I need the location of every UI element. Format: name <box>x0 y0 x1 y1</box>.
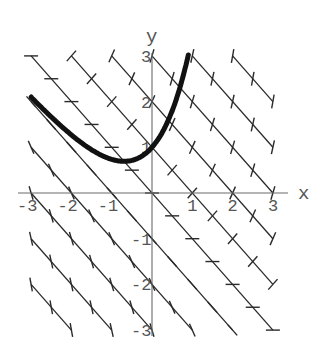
x-tick-label: -1 <box>98 197 118 216</box>
slope-mark <box>271 140 274 154</box>
slope-mark <box>50 255 53 269</box>
slope-mark <box>231 141 235 154</box>
slope-mark <box>67 142 76 153</box>
y-tick-label: -1 <box>131 231 151 250</box>
slope-mark <box>190 95 194 108</box>
slope-mark <box>48 164 54 177</box>
slope-mark <box>210 164 216 177</box>
slope-mark <box>127 211 136 222</box>
slope-mark <box>28 141 34 154</box>
x-tick-label: -3 <box>17 197 37 216</box>
slope-mark <box>69 232 73 245</box>
slope-mark <box>208 302 217 313</box>
slope-mark <box>109 49 115 62</box>
slope-mark <box>191 49 194 63</box>
y-tick-label: 2 <box>141 94 151 113</box>
slope-mark <box>250 209 256 222</box>
slope-mark <box>169 301 175 314</box>
slope-mark <box>129 255 135 268</box>
y-tick-label: -2 <box>131 276 151 295</box>
slope-mark <box>30 232 33 246</box>
slope-mark <box>189 141 195 154</box>
slope-mark <box>168 256 177 267</box>
slope-mark <box>189 324 195 337</box>
x-tick-label: -2 <box>57 197 77 216</box>
slope-mark <box>211 72 214 86</box>
y-tick-label: 3 <box>141 48 151 67</box>
x-tick-label: 2 <box>228 197 238 216</box>
slope-mark <box>110 278 114 291</box>
slope-mark <box>70 278 73 292</box>
slope-mark <box>129 72 135 85</box>
slope-mark <box>130 301 134 314</box>
slope-mark <box>251 163 255 176</box>
slope-mark <box>110 323 113 337</box>
y-tick-labels: -3-2-1123 <box>131 48 151 341</box>
y-tick-label: -3 <box>131 322 151 341</box>
slope-mark <box>188 279 197 290</box>
slope-mark <box>109 232 115 245</box>
slope-mark <box>251 118 254 132</box>
slope-mark <box>210 118 214 131</box>
slope-mark <box>89 209 95 222</box>
slope-mark <box>228 325 237 336</box>
slope-mark <box>270 232 276 245</box>
slope-mark <box>87 165 96 176</box>
slope-mark <box>90 255 94 268</box>
slope-mark <box>90 300 93 314</box>
y-axis-label: y <box>146 26 157 48</box>
x-tick-label: 3 <box>268 197 278 216</box>
x-axis-label: x <box>298 183 309 205</box>
x-tick-label: 1 <box>187 197 197 216</box>
slope-mark <box>170 72 174 85</box>
direction-field-plot: -3-2-1123 -3-2-1123 x y <box>0 0 324 355</box>
slope-mark <box>231 95 234 109</box>
slope-mark <box>49 209 53 222</box>
